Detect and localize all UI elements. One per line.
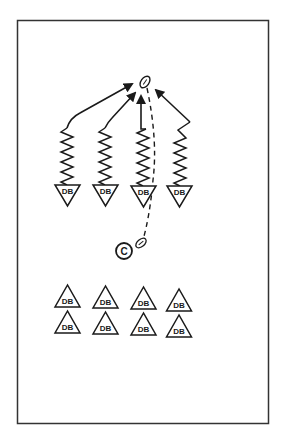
- coach-marker: C: [116, 243, 132, 259]
- db-label: DB: [62, 323, 74, 332]
- db-label: DB: [174, 188, 186, 197]
- db-label: DB: [62, 187, 74, 196]
- db-label: DB: [138, 188, 150, 197]
- db-label: DB: [100, 187, 112, 196]
- db-label: DB: [100, 298, 112, 307]
- coach-label: C: [120, 246, 127, 257]
- db-label: DB: [62, 297, 74, 306]
- db-label: DB: [100, 324, 112, 333]
- drill-diagram: C DB DB DB DB DB: [0, 0, 282, 446]
- db-label: DB: [138, 325, 150, 334]
- db-label: DB: [173, 301, 185, 310]
- db-label: DB: [138, 299, 150, 308]
- db-label: DB: [173, 327, 185, 336]
